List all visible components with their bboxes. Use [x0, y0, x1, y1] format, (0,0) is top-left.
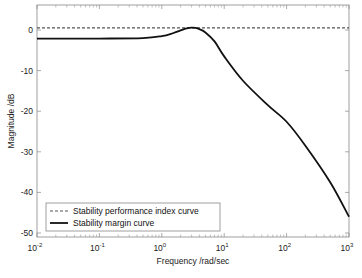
x-tick-label: 103: [341, 242, 354, 253]
legend-label-margin-curve: Stability margin curve: [73, 218, 155, 228]
x-tick-label: 102: [278, 242, 291, 253]
y-tick-label: -40: [21, 187, 34, 197]
y-axis-label: Magnitude /dB: [6, 93, 16, 148]
y-tick-label: -10: [21, 66, 34, 76]
y-tick-label: -20: [21, 106, 34, 116]
y-tick-label: -30: [21, 147, 34, 157]
legend-label-performance-index: Stability performance index curve: [73, 206, 199, 216]
legend: Stability performance index curve Stabil…: [46, 203, 220, 231]
x-axis-label: Frequency /rad/sec: [157, 256, 231, 266]
x-tick-label: 100: [153, 242, 166, 253]
plot-area: [37, 5, 349, 237]
bode-magnitude-chart: 0-10-20-30-40-50 10-210-1100101102103 St…: [0, 0, 362, 278]
y-tick-label: -50: [21, 228, 34, 238]
x-tick-label: 101: [216, 242, 229, 253]
x-tick-label: 10-2: [28, 242, 43, 253]
y-tick-label: 0: [28, 25, 33, 35]
x-tick-label: 10-1: [90, 242, 105, 253]
